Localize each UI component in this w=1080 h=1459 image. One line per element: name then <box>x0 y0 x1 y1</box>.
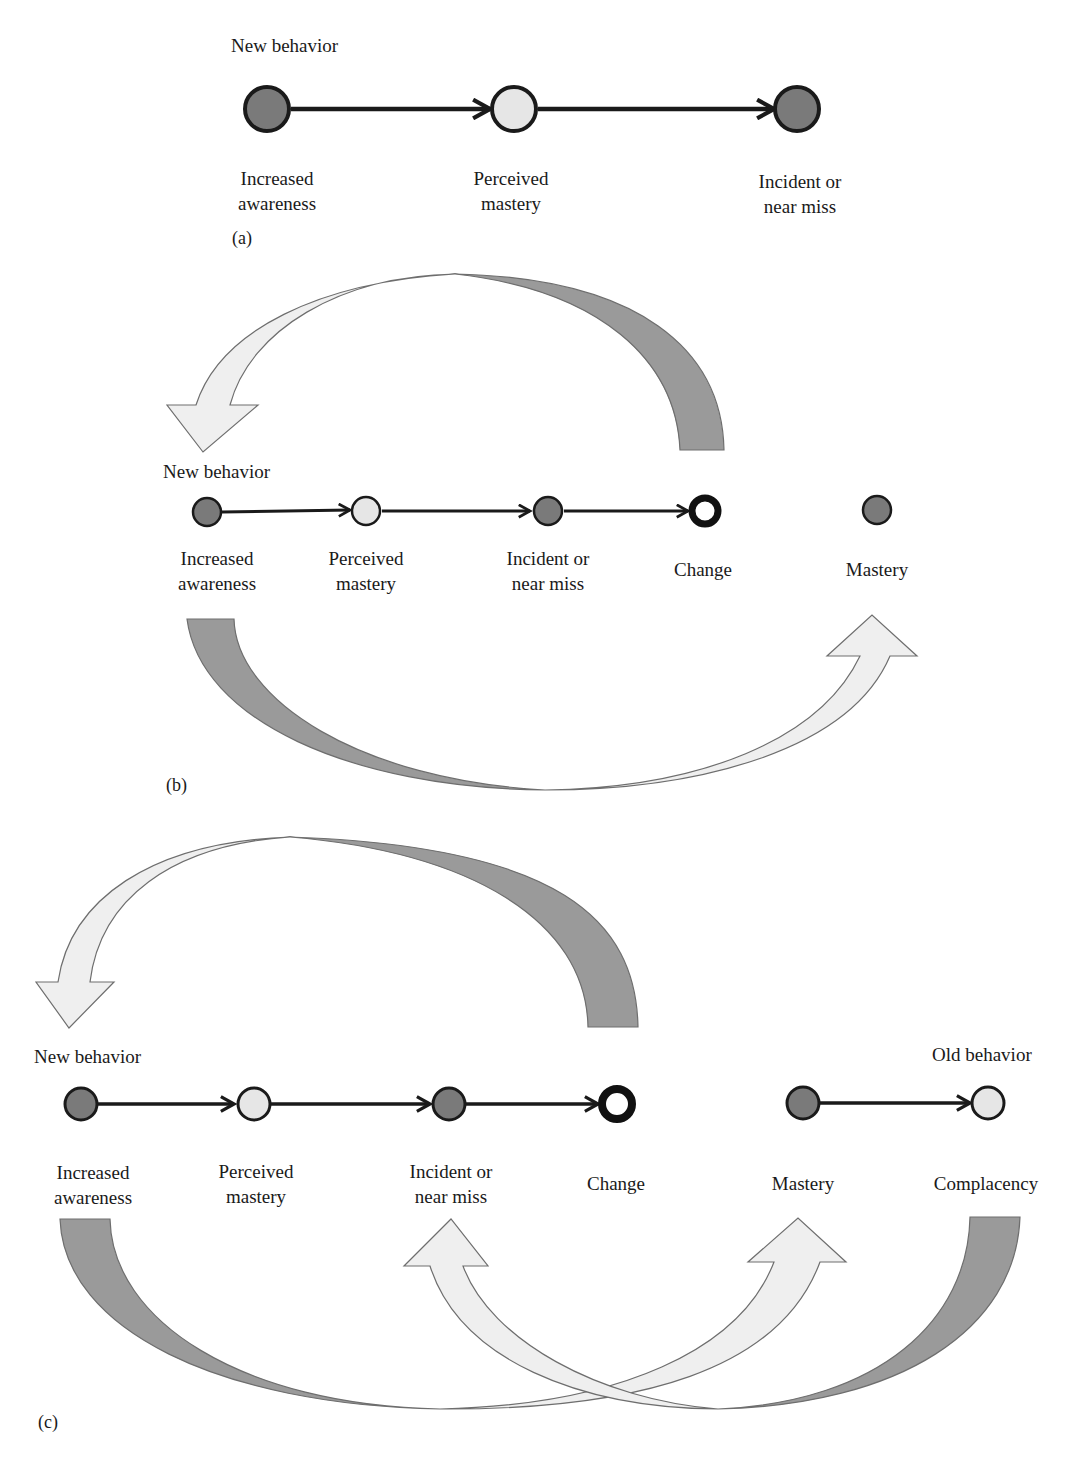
panel-a-tag: (a) <box>232 228 252 249</box>
panel-c-left-arrow-tail <box>60 1219 440 1409</box>
panel-b-link-1 <box>222 510 350 512</box>
panel-b-tag: (b) <box>166 775 187 796</box>
panel-a-node-increased-awareness <box>245 87 289 131</box>
panel-c-header-old-behavior: Old behavior <box>932 1042 1032 1067</box>
panel-c-node-complacency <box>972 1087 1004 1119</box>
panel-c-node-increased-awareness <box>65 1088 97 1120</box>
panel-c-top-arrow-tail <box>290 837 638 1027</box>
panel-c-node-change <box>602 1089 632 1119</box>
panel-b-label-mastery: Mastery <box>846 557 908 582</box>
panel-c-node-mastery <box>787 1087 819 1119</box>
diagram-graphics <box>0 0 1080 1459</box>
panel-b-top-arrow-tail <box>455 274 724 450</box>
panel-a-node-perceived-mastery <box>492 87 536 131</box>
panel-b-bottom-arrowhead <box>545 615 917 790</box>
panel-b-label-change: Change <box>674 557 732 582</box>
panel-c-label-increased-awareness: Increased awareness <box>54 1160 132 1210</box>
panel-c-label-change: Change <box>587 1171 645 1196</box>
panel-b-bottom-arrow-tail <box>187 619 545 790</box>
panel-c-left-arrowhead <box>440 1218 846 1409</box>
panel-b-graphics <box>167 274 917 790</box>
panel-a-graphics <box>245 87 819 131</box>
panel-c-label-mastery: Mastery <box>772 1171 834 1196</box>
diagram-canvas: New behavior Increased awareness Perceiv… <box>0 0 1080 1459</box>
panel-b-node-increased-awareness <box>193 498 221 526</box>
panel-b-label-increased-awareness: Increased awareness <box>178 546 256 596</box>
panel-c-tag: (c) <box>38 1412 58 1433</box>
panel-c-header-new-behavior: New behavior <box>34 1044 141 1069</box>
panel-a-label-increased-awareness: Increased awareness <box>238 166 316 216</box>
panel-c-label-incident: Incident or near miss <box>410 1159 493 1209</box>
panel-b-label-incident: Incident or near miss <box>507 546 590 596</box>
panel-c-node-perceived-mastery <box>238 1088 270 1120</box>
panel-c-node-incident <box>433 1088 465 1120</box>
panel-b-node-mastery <box>863 496 891 524</box>
panel-c-graphics <box>36 837 1020 1409</box>
panel-c-label-complacency: Complacency <box>934 1171 1038 1196</box>
panel-b-node-perceived-mastery <box>352 497 380 525</box>
panel-b-node-change <box>692 498 718 524</box>
panel-a-node-incident <box>775 87 819 131</box>
panel-c-top-arrowhead <box>36 837 290 1028</box>
panel-a-label-incident: Incident or near miss <box>759 169 842 219</box>
panel-b-header-new-behavior: New behavior <box>163 459 270 484</box>
panel-b-node-incident <box>534 497 562 525</box>
panel-b-top-arrowhead <box>167 274 455 452</box>
panel-b-label-perceived-mastery: Perceived mastery <box>329 546 404 596</box>
panel-a-label-perceived-mastery: Perceived mastery <box>474 166 549 216</box>
panel-c-label-perceived-mastery: Perceived mastery <box>219 1159 294 1209</box>
panel-a-header-new-behavior: New behavior <box>231 33 338 58</box>
